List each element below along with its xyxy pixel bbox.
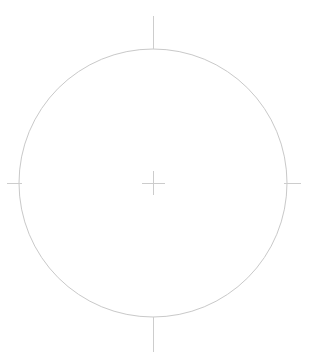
drawing-canvas [0, 0, 313, 361]
circle-drawing-svg [0, 0, 313, 361]
